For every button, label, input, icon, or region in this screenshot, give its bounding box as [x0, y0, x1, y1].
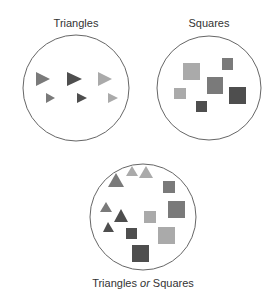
circle-triangles [23, 35, 129, 141]
square-icon [132, 245, 149, 262]
circle-union [90, 164, 196, 270]
square-icon [222, 58, 233, 70]
venn-diagram [0, 0, 280, 305]
triangle-icon [126, 166, 138, 176]
square-icon [174, 88, 186, 99]
triangle-icon [36, 72, 50, 86]
square-icon [183, 63, 200, 80]
triangle-icon [108, 93, 118, 103]
triangle-icon [103, 222, 114, 232]
square-icon [196, 101, 207, 112]
triangle-icon [77, 93, 87, 103]
square-icon [158, 227, 175, 244]
triangle-icon [114, 209, 128, 222]
square-icon [168, 201, 185, 218]
triangle-icon [67, 72, 82, 86]
square-icon [144, 211, 156, 223]
triangle-icon [98, 72, 112, 86]
square-icon [207, 77, 223, 94]
triangle-icon [139, 166, 153, 178]
circle-squares [157, 36, 261, 140]
triangle-icon [46, 93, 55, 103]
square-icon [126, 228, 137, 239]
square-icon [229, 87, 246, 104]
triangle-icon [100, 202, 112, 212]
square-icon [163, 181, 175, 193]
